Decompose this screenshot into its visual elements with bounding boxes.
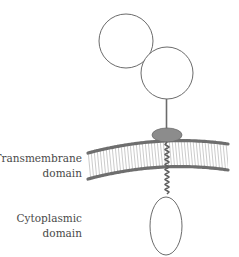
extracellular-domain-2 [141,47,193,99]
membrane-anchor [152,128,182,142]
transmembrane-label-line2: domain [0,166,82,181]
cytoplasmic-domain [150,197,182,255]
lipid-bilayer [88,139,229,182]
receptor-diagram: Transmembrane domain Cytoplasmic domain [0,0,239,257]
cytoplasmic-domain-label: Cytoplasmic domain [17,211,82,241]
transmembrane-label-line1: Transmembrane [0,151,82,166]
cytoplasmic-label-line1: Cytoplasmic [17,211,82,226]
transmembrane-domain-label: Transmembrane domain [0,151,82,181]
cytoplasmic-label-line2: domain [17,226,82,241]
membrane-inner-leaflet [88,167,228,179]
